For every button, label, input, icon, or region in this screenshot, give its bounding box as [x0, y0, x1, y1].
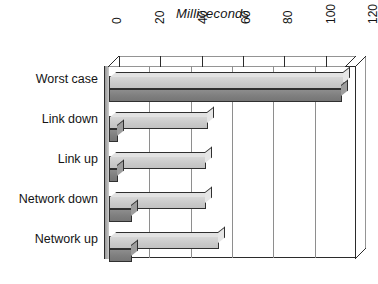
plot-right-edge	[355, 56, 366, 259]
category-label-worst-case: Worst case	[0, 72, 98, 86]
x-tick-label: 60	[239, 11, 253, 24]
plot-area	[104, 56, 362, 262]
tickmark-40	[202, 56, 203, 67]
bar-link-down-series-2	[109, 129, 118, 142]
bar-network-down-series-1	[109, 196, 206, 209]
category-label-network-down: Network down	[0, 192, 98, 206]
bar-network-up-series-2	[109, 249, 132, 262]
tickmark-20	[160, 56, 161, 67]
x-tick-label: 120	[366, 4, 378, 24]
bar-top-face	[110, 152, 211, 157]
bar-worst-case-series-2	[109, 89, 342, 102]
bar-worst-case-series-1	[109, 76, 344, 89]
tickmark-0	[119, 56, 120, 67]
bar-top-face	[110, 112, 213, 117]
x-tick-label: 20	[153, 11, 167, 24]
x-tick-label: 100	[324, 4, 338, 24]
bar-network-down-series-2	[109, 209, 132, 222]
tickmark-100	[326, 56, 327, 67]
category-label-link-up: Link up	[0, 152, 98, 166]
x-tick-label: 80	[281, 11, 295, 24]
bar-top-face	[110, 192, 211, 197]
y-axis-category-labels: Worst case Link down Link up Network dow…	[0, 0, 104, 284]
category-label-link-down: Link down	[0, 112, 98, 126]
x-tick-label: 0	[110, 17, 124, 24]
bar-network-up-series-1	[109, 236, 219, 249]
x-tick-label: 40	[196, 11, 210, 24]
bar-chart: Milliseconds 0 20 40 60 80 100 120 Worst…	[0, 0, 378, 284]
tickmark-80	[284, 56, 285, 67]
bar-top-face	[110, 72, 349, 77]
category-label-network-up: Network up	[0, 232, 98, 246]
bar-top-face	[110, 232, 224, 237]
bar-link-up-series-2	[109, 169, 118, 182]
tickmark-60	[243, 56, 244, 67]
